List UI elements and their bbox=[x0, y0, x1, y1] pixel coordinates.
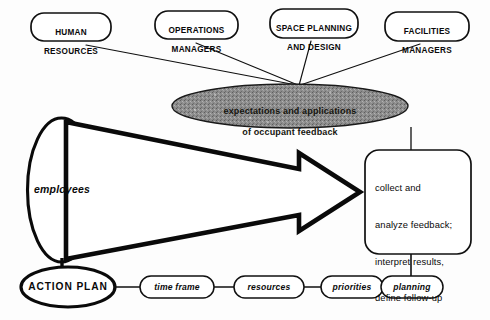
connector-human-resources bbox=[86, 45, 299, 86]
step-pill-planning[interactable] bbox=[381, 276, 443, 298]
step-pill-time-frame[interactable] bbox=[140, 276, 214, 298]
action-plan-ellipse[interactable] bbox=[21, 267, 115, 307]
step-pills bbox=[140, 276, 443, 298]
diagram-vector-layer bbox=[0, 0, 490, 320]
hub-ellipse-group bbox=[172, 84, 408, 128]
stakeholder-boxes bbox=[31, 9, 469, 41]
step-pill-resources[interactable] bbox=[234, 276, 304, 298]
stakeholder-box-operations-managers[interactable] bbox=[155, 11, 238, 39]
step-pill-priorities[interactable] bbox=[321, 276, 383, 298]
funnel-arrow bbox=[66, 122, 360, 259]
task-box[interactable] bbox=[365, 150, 471, 254]
hub-ellipse[interactable] bbox=[172, 84, 408, 128]
connector-operations-managers bbox=[196, 43, 299, 86]
stakeholder-box-space-planning[interactable] bbox=[270, 9, 358, 38]
stakeholder-connectors bbox=[86, 41, 420, 86]
stakeholder-box-human-resources[interactable] bbox=[31, 13, 111, 41]
connector-facilities-managers bbox=[299, 44, 420, 86]
connector-space-planning bbox=[299, 41, 311, 86]
diagram-canvas: HUMAN RESOURCES OPERATIONS MANAGERS SPAC… bbox=[0, 0, 490, 320]
stakeholder-box-facilities-managers[interactable] bbox=[385, 12, 469, 41]
